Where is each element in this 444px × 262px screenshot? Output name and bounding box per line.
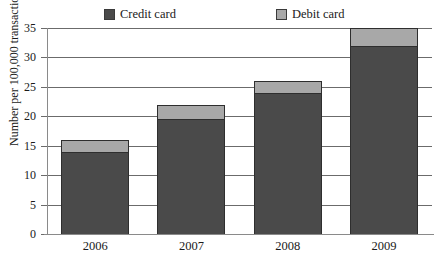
y-tick-label: 5 [0,199,36,211]
legend-label-debit-card: Debit card [292,8,344,21]
x-axis-line [44,234,434,235]
y-tick-label: 15 [0,140,36,152]
bar-segment-credit-card [61,152,129,234]
y-tick-label: 10 [0,169,36,181]
y-tick-label: 25 [0,81,36,93]
bar-segment-debit-card [157,105,225,120]
bar-2009 [350,28,418,234]
x-tick-label-2008: 2008 [240,240,336,253]
y-tick-label: 35 [0,22,36,34]
x-tick-label-2007: 2007 [143,240,239,253]
y-axis-line [47,28,48,235]
bar-segment-credit-card [254,93,322,234]
bar-chart-figure: Credit card Debit card Number per 100,00… [0,0,444,262]
bar-2007 [157,105,225,234]
y-tick-label: 30 [0,51,36,63]
bar-segment-debit-card [254,81,322,93]
legend-entry-debit-card: Debit card [276,8,344,21]
bar-2008 [254,81,322,234]
legend-entry-credit-card: Credit card [104,8,176,21]
x-tick-label-2009: 2009 [336,240,432,253]
bar-segment-debit-card [61,140,129,152]
bar-segment-credit-card [157,119,225,234]
y-tick-label: 20 [0,110,36,122]
bar-segment-debit-card [350,28,418,46]
y-tick-label: 0 [0,228,36,240]
legend-swatch-credit-card [104,9,115,20]
legend-swatch-debit-card [276,9,287,20]
chart-legend: Credit card Debit card [0,8,444,24]
legend-label-credit-card: Credit card [120,8,176,21]
x-tick-label-2006: 2006 [47,240,143,253]
bar-2006 [61,140,129,234]
bar-segment-credit-card [350,46,418,234]
